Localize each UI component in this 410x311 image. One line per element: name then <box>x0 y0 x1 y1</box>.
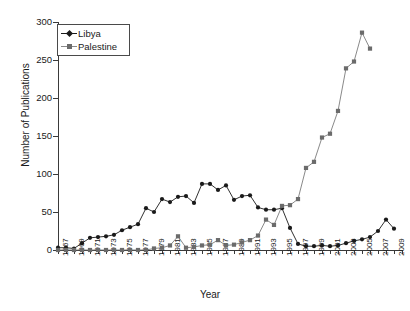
chart-figure: 050100150200250300 196719691971197319751… <box>0 0 410 311</box>
legend-entry-libya: Libya <box>61 27 126 40</box>
legend-label-palestine: Palestine <box>77 42 117 52</box>
legend-label-libya: Libya <box>77 29 101 39</box>
series-libya <box>56 182 396 251</box>
square-icon <box>61 41 77 52</box>
series-palestine <box>56 31 372 253</box>
diamond-icon <box>61 28 77 39</box>
legend-entry-palestine: Palestine <box>61 40 126 53</box>
legend-box: Libya Palestine <box>57 24 130 56</box>
